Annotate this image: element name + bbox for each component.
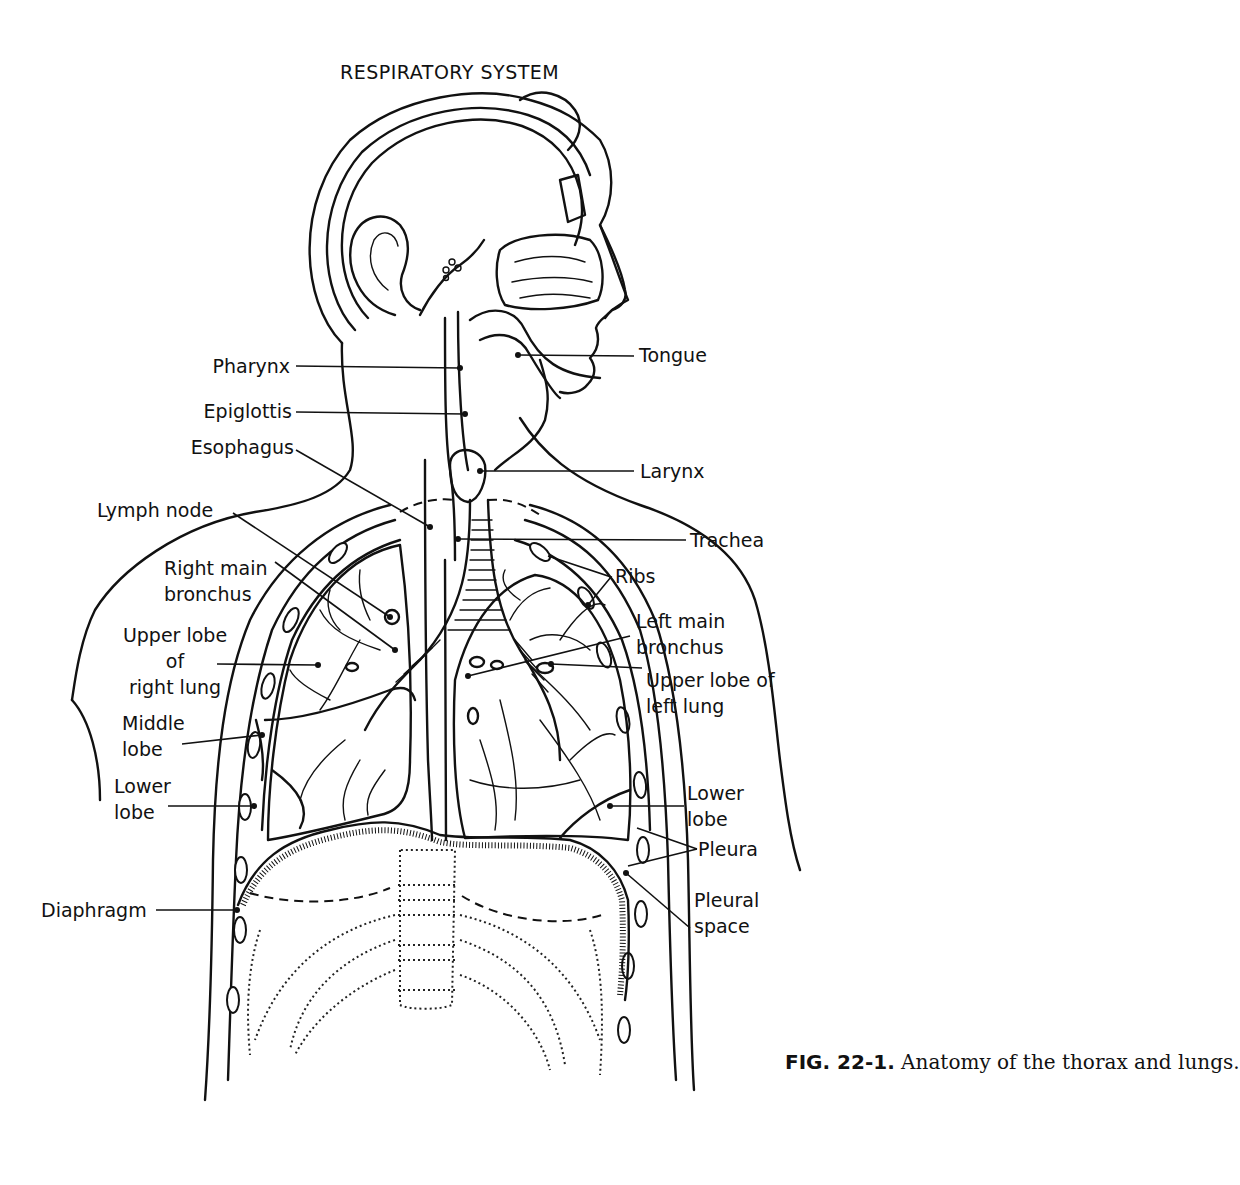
label-upper-lobe-left-lung: Upper lobe of left lung — [646, 667, 775, 719]
chest-wall — [205, 499, 694, 1100]
figure-caption: FIG. 22-1. Anatomy of the thorax and lun… — [785, 1050, 1240, 1074]
airway-tubes — [365, 311, 600, 840]
rib-cage — [248, 850, 602, 1075]
label-larynx: Larynx — [640, 458, 705, 484]
label-pharynx: Pharynx — [190, 353, 290, 379]
label-pleura: Pleura — [698, 836, 758, 862]
label-esophagus: Esophagus — [170, 434, 294, 460]
label-ribs: Ribs — [615, 563, 655, 589]
label-lower-lobe-left: Lower lobe — [687, 780, 744, 832]
figure-number: FIG. 22-1. — [785, 1050, 895, 1074]
label-pleural-space: Pleural space — [694, 887, 759, 939]
label-diaphragm: Diaphragm — [41, 897, 147, 923]
label-trachea: Trachea — [690, 527, 764, 553]
label-lymph-node: Lymph node — [97, 497, 213, 523]
label-tongue: Tongue — [639, 342, 707, 368]
label-right-main-bronchus: Right main bronchus — [164, 555, 268, 607]
label-lower-lobe-right: Lower lobe — [114, 773, 171, 825]
label-middle-lobe: Middle lobe — [122, 710, 185, 762]
caption-text: Anatomy of the thorax and lungs. — [895, 1050, 1240, 1074]
label-left-main-bronchus: Left main bronchus — [636, 608, 725, 660]
label-epiglottis: Epiglottis — [180, 398, 292, 424]
label-upper-lobe-right-lung: Upper lobe of right lung — [120, 622, 230, 700]
figure-title: RESPIRATORY SYSTEM — [340, 61, 559, 83]
diaphragm — [238, 822, 629, 1000]
